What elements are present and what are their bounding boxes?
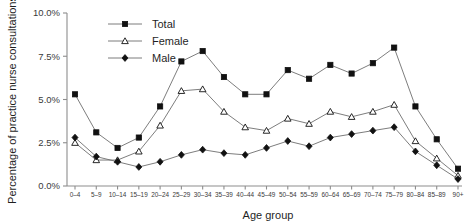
y-tick-label: 2.5% <box>38 137 60 148</box>
data-point-marker <box>136 135 141 140</box>
x-tick-label: 10–14 <box>109 191 127 198</box>
data-point-marker <box>413 104 418 109</box>
legend-label-female[interactable]: Female <box>152 35 189 47</box>
x-tick-label: 45–49 <box>258 191 276 198</box>
chart-legend: TotalFemaleMale <box>108 18 189 64</box>
series-female <box>72 86 462 178</box>
data-point-marker <box>327 134 333 141</box>
data-point-marker <box>285 138 291 145</box>
data-point-marker <box>242 124 249 130</box>
data-point-marker <box>391 101 398 107</box>
data-point-marker <box>72 92 77 97</box>
data-point-marker <box>94 130 99 135</box>
x-tick-label: 0–4 <box>70 191 81 198</box>
x-tick-label: 50–54 <box>279 191 297 198</box>
data-point-marker <box>434 162 440 169</box>
data-point-marker <box>242 151 248 158</box>
y-tick-label: 0.0% <box>38 180 60 191</box>
x-tick-label: 35–39 <box>215 191 233 198</box>
x-axis: 0–45–910–1415–1920–2425–2930–3435–3940–4… <box>67 186 464 198</box>
data-point-marker <box>200 48 205 53</box>
x-tick-label: 70–74 <box>364 191 382 198</box>
data-point-marker <box>221 150 227 157</box>
data-point-marker <box>157 122 164 128</box>
x-tick-label: 15–19 <box>130 191 148 198</box>
x-tick-label: 55–59 <box>300 191 318 198</box>
data-point-marker <box>178 151 184 158</box>
y-axis-ticks: 0.0%2.5%5.0%7.5%10.0% <box>33 7 67 191</box>
chart-container: 0.0%2.5%5.0%7.5%10.0% 0–45–910–1415–1920… <box>0 0 467 224</box>
x-tick-label: 85–89 <box>428 191 446 198</box>
y-tick-label: 10.0% <box>33 7 60 18</box>
data-point-marker <box>199 86 206 92</box>
data-point-marker <box>327 108 334 114</box>
series-line <box>75 127 458 179</box>
y-tick-label: 7.5% <box>38 51 60 62</box>
data-point-marker <box>115 145 120 150</box>
x-axis-ticks: 0–45–910–1415–1920–2425–2930–3435–3940–4… <box>70 186 464 198</box>
y-tick-label: 5.0% <box>38 94 60 105</box>
data-point-marker <box>284 115 291 121</box>
data-point-marker <box>306 143 312 150</box>
x-tick-label: 65–69 <box>343 191 361 198</box>
x-tick-label: 90+ <box>453 191 464 198</box>
x-tick-label: 80–84 <box>407 191 425 198</box>
data-point-marker <box>179 59 184 64</box>
data-point-marker <box>370 61 375 66</box>
data-point-marker <box>243 92 248 97</box>
series-layer <box>72 45 462 182</box>
data-point-marker <box>200 146 206 153</box>
data-point-marker <box>370 127 376 134</box>
data-point-marker <box>285 67 290 72</box>
data-point-marker <box>264 92 269 97</box>
y-axis-title: Percentage of practice nurse consultatio… <box>6 0 18 204</box>
data-point-marker <box>412 138 419 144</box>
data-point-marker <box>158 104 163 109</box>
x-tick-label: 75–79 <box>385 191 403 198</box>
line-chart: 0.0%2.5%5.0%7.5%10.0% 0–45–910–1415–1920… <box>0 0 467 224</box>
y-axis: 0.0%2.5%5.0%7.5%10.0% <box>33 7 67 191</box>
data-point-marker <box>136 164 142 171</box>
x-tick-label: 30–34 <box>194 191 212 198</box>
data-point-marker <box>306 76 311 81</box>
data-point-marker <box>349 71 354 76</box>
series-total <box>72 45 460 171</box>
data-point-marker <box>157 158 163 165</box>
legend-label-total[interactable]: Total <box>152 18 175 30</box>
data-point-marker <box>328 62 333 67</box>
data-point-marker <box>455 166 460 171</box>
data-point-marker <box>122 21 127 26</box>
data-point-marker <box>221 74 226 79</box>
data-point-marker <box>264 145 270 152</box>
data-point-marker <box>392 45 397 50</box>
x-tick-label: 40–44 <box>236 191 254 198</box>
x-tick-label: 25–29 <box>172 191 190 198</box>
x-tick-label: 60–64 <box>321 191 339 198</box>
legend-label-male[interactable]: Male <box>152 52 176 64</box>
data-point-marker <box>434 137 439 142</box>
data-point-marker <box>122 55 128 62</box>
x-axis-title: Age group <box>243 209 294 221</box>
x-tick-label: 20–24 <box>151 191 169 198</box>
x-tick-label: 5–9 <box>91 191 102 198</box>
data-point-marker <box>349 131 355 138</box>
